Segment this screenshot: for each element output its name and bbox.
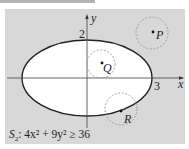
set-expression: : 4x² + 9y² ≥ 36 [18, 128, 90, 140]
point-label-r: R [124, 113, 131, 125]
x-axis-label: x [178, 78, 183, 90]
point-p [152, 31, 155, 34]
x-tick-label-3: 3 [154, 80, 160, 92]
point-label-p: P [156, 29, 163, 41]
y-tick-label-2: 2 [79, 28, 85, 40]
set-definition: S2: 4x² + 9y² ≥ 36 [9, 128, 90, 143]
point-r [120, 110, 123, 113]
y-axis-label: y [91, 12, 96, 24]
point-label-q: Q [103, 62, 112, 74]
y-axis-arrow-icon [85, 14, 88, 19]
